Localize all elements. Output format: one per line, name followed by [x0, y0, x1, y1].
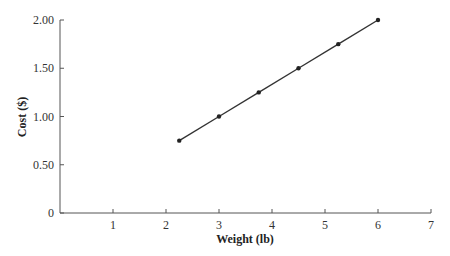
y-tick-label: 2.00	[33, 13, 54, 27]
data-point	[296, 66, 300, 70]
y-tick-label: 0	[48, 206, 54, 220]
x-tick-label: 2	[163, 218, 169, 232]
y-axis-label: Cost ($)	[15, 97, 29, 137]
x-tick-label: 5	[322, 218, 328, 232]
x-tick-label: 4	[269, 218, 275, 232]
x-axis-ticks: 1234567	[110, 209, 434, 232]
y-axis-ticks: 00.501.001.502.00	[33, 13, 64, 220]
data-point	[217, 114, 221, 118]
data-point	[257, 90, 261, 94]
data-point	[376, 18, 380, 22]
series-line	[179, 20, 378, 141]
y-tick-label: 1.00	[33, 110, 54, 124]
x-tick-label: 6	[375, 218, 381, 232]
x-axis-label: Weight (lb)	[216, 232, 274, 246]
y-tick-label: 1.50	[33, 61, 54, 75]
x-tick-label: 3	[216, 218, 222, 232]
x-tick-label: 1	[110, 218, 116, 232]
axes	[60, 20, 431, 213]
y-tick-label: 0.50	[33, 158, 54, 172]
data-point	[336, 42, 340, 46]
data-point	[177, 138, 181, 142]
data-series	[177, 18, 380, 143]
line-chart: 1234567 00.501.001.502.00 Weight (lb) Co…	[0, 0, 450, 256]
x-tick-label: 7	[428, 218, 434, 232]
